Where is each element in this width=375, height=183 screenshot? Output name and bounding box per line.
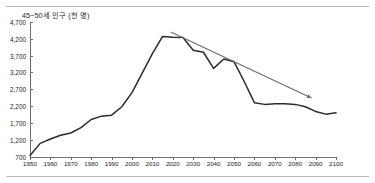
y-axis-tick [30, 72, 33, 73]
x-axis-tick [71, 157, 72, 160]
x-axis-tick [132, 157, 133, 160]
x-axis-tick [50, 157, 51, 160]
y-axis-tick [30, 140, 33, 141]
x-axis-tick [152, 157, 153, 160]
x-axis-tick [91, 157, 92, 160]
x-axis-tick [295, 157, 296, 160]
x-axis-tick [254, 157, 255, 160]
x-axis-tick [316, 157, 317, 160]
x-axis-tick [336, 157, 337, 160]
y-axis-tick [30, 123, 33, 124]
series-layer [0, 0, 375, 183]
chart-figure: 45~50세 인구 (천 명) 4,7004,2003,7003,2002,70… [0, 0, 375, 183]
y-axis-tick [30, 56, 33, 57]
x-axis-tick [173, 157, 174, 160]
x-axis-tick [193, 157, 194, 160]
x-axis-tick [214, 157, 215, 160]
x-axis-tick [275, 157, 276, 160]
x-axis-tick [234, 157, 235, 160]
x-axis-tick [30, 157, 31, 160]
y-axis-tick [30, 106, 33, 107]
y-axis-tick [30, 89, 33, 90]
x-axis-tick [112, 157, 113, 160]
y-axis-tick [30, 22, 33, 23]
y-axis-tick [30, 39, 33, 40]
population-line [30, 36, 336, 155]
decline-trend-arrow [171, 32, 312, 98]
